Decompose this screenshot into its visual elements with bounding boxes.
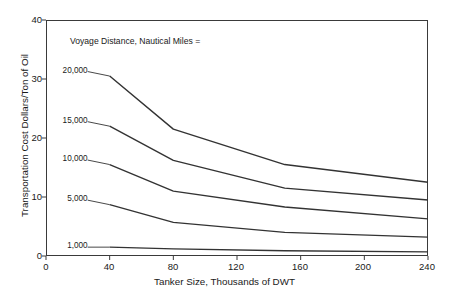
x-tick-label-160: 160 bbox=[285, 262, 315, 272]
x-tick-label-0: 0 bbox=[31, 262, 61, 272]
x-tick-label-80: 80 bbox=[158, 262, 188, 272]
plot-area bbox=[46, 20, 428, 256]
voyage-distance-annotation: Voyage Distance, Nautical Miles = bbox=[70, 36, 200, 46]
x-tick-label-120: 120 bbox=[221, 262, 251, 272]
y-axis-title: Transportation Cost Dollars/Ton of Oil bbox=[19, 16, 30, 256]
series-label-1000: 1,000 bbox=[52, 241, 88, 250]
series-label-5000: 5,000 bbox=[52, 194, 88, 203]
series-label-15000: 15,000 bbox=[52, 116, 88, 125]
x-tick-label-200: 200 bbox=[348, 262, 378, 272]
series-label-20000: 20,000 bbox=[52, 66, 88, 75]
x-tick-label-40: 40 bbox=[94, 262, 124, 272]
x-axis-title: Tanker Size, Thousands of DWT bbox=[0, 276, 449, 287]
series-label-10000: 10,000 bbox=[52, 154, 88, 163]
x-tick-label-240: 240 bbox=[412, 262, 442, 272]
chart-container: 40 30 20 10 0 0 40 80 120 160 200 240 Ta… bbox=[0, 0, 449, 299]
